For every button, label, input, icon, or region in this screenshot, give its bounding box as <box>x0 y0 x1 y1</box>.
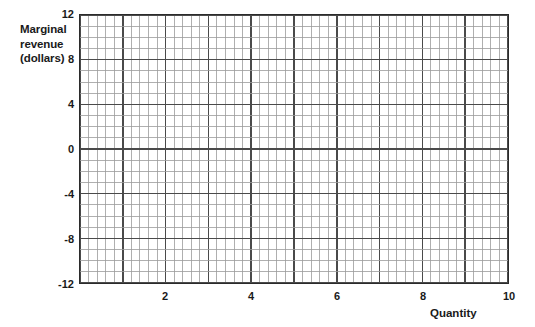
y-axis-tick-label: 12 <box>40 9 74 20</box>
y-axis-tick-label: -4 <box>40 189 74 200</box>
x-axis-tick-label: 4 <box>236 291 266 302</box>
x-axis-tick-label: 2 <box>150 291 180 302</box>
x-axis-tick-labels: 246810 <box>79 291 509 307</box>
plot-area <box>79 14 509 284</box>
y-axis-tick-label: 4 <box>40 99 74 110</box>
x-axis-tick-label: 8 <box>408 291 438 302</box>
marginal-revenue-chart: Marginal revenue (dollars) 12840-4-8-12 … <box>0 0 535 327</box>
y-axis-tick-label: -12 <box>40 279 74 290</box>
y-axis-tick-label: 0 <box>40 144 74 155</box>
x-axis-tick-label: 10 <box>494 291 524 302</box>
y-axis-tick-label: -8 <box>40 234 74 245</box>
y-axis-tick-labels: 12840-4-8-12 <box>38 0 74 327</box>
x-axis-tick-label: 6 <box>322 291 352 302</box>
x-axis-title: Quantity <box>430 307 477 320</box>
grid-lines <box>80 15 508 283</box>
y-axis-tick-label: 8 <box>40 54 74 65</box>
